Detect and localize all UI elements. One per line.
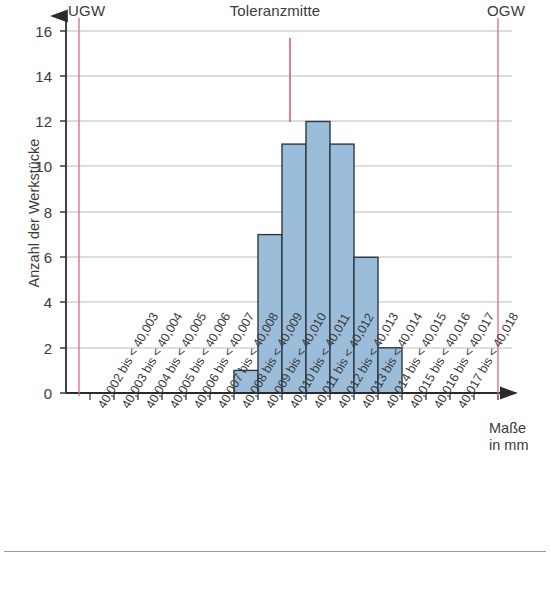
y-tick-label-14: 14 (26, 68, 52, 85)
y-tick-label-12: 12 (26, 113, 52, 130)
y-tick-label-2: 2 (26, 340, 52, 357)
x-axis-title: Maße in mm (489, 420, 545, 454)
bottom-divider (4, 551, 546, 552)
x-axis-title-line2: in mm (489, 437, 528, 453)
chart-canvas (0, 0, 550, 614)
x-axis-title-line1: Maße (489, 420, 526, 436)
ugw-label: UGW (68, 2, 105, 19)
ogw-label: OGW (487, 2, 525, 19)
histogram-chart: Toleranzmitte UGW OGW Anzahl der Werkstü… (0, 0, 550, 614)
y-tick-label-6: 6 (26, 249, 52, 266)
y-tick-label-10: 10 (26, 158, 52, 175)
y-tick-label-0: 0 (26, 385, 52, 402)
y-tick-label-4: 4 (26, 294, 52, 311)
y-tick-label-16: 16 (26, 23, 52, 40)
y-tick-label-8: 8 (26, 204, 52, 221)
